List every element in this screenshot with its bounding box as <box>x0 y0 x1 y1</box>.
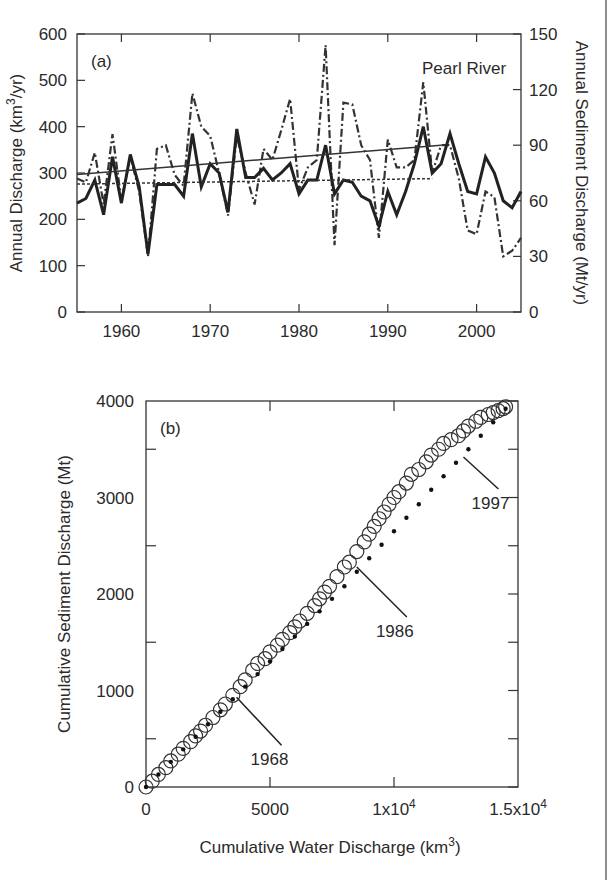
data-point-fitted <box>169 760 173 764</box>
data-point-fitted <box>429 488 433 492</box>
y-tick-label: 400 <box>39 118 67 137</box>
y2-tick-label: 150 <box>529 25 557 44</box>
panel-b-plot-frame <box>146 401 518 787</box>
x-tick-label: 1960 <box>102 322 140 341</box>
data-point-observed <box>218 697 232 711</box>
y2-tick-label: 0 <box>529 303 538 322</box>
annotation-year-label: 1997 <box>472 494 510 513</box>
y-tick-label: 4000 <box>96 392 134 411</box>
data-point-observed <box>350 545 364 559</box>
data-point-fitted <box>293 634 297 638</box>
data-point-fitted <box>491 420 495 424</box>
data-point-fitted <box>268 659 272 663</box>
data-point-fitted <box>181 747 185 751</box>
annotation-year-label: 1968 <box>251 750 289 769</box>
panel-a-right-y-label: Annual Sediment Discharge (Mt/yr) <box>572 41 591 306</box>
data-point-observed <box>392 485 406 499</box>
y-tick-label: 100 <box>39 257 67 276</box>
data-point-fitted <box>342 584 346 588</box>
data-point-observed <box>199 718 213 732</box>
panel-b-cumulative-discharge: 050001x1041.5x104 01000200030004000 1968… <box>55 392 547 857</box>
y2-tick-label: 30 <box>529 247 548 266</box>
data-point-fitted <box>243 684 247 688</box>
y-tick-label: 2000 <box>96 585 134 604</box>
series-sediment-discharge-trend <box>77 179 432 185</box>
data-point-fitted <box>367 556 371 560</box>
x-tick-label: 5000 <box>251 800 289 819</box>
panel-a-annual-discharge: 19601970198019902000 0100200300400500600… <box>4 25 591 341</box>
data-point-observed <box>362 527 376 541</box>
y2-tick-label: 120 <box>529 81 557 100</box>
panel-b-x-label: Cumulative Water Discharge (km3) <box>199 835 460 857</box>
data-point-fitted <box>355 570 359 574</box>
data-point-fitted <box>231 697 235 701</box>
figure: 19601970198019902000 0100200300400500600… <box>0 0 614 880</box>
data-point-fitted <box>317 609 321 613</box>
series-water-discharge <box>77 127 521 254</box>
data-point-fitted <box>417 502 421 506</box>
data-point-fitted <box>441 474 445 478</box>
data-point-observed <box>330 570 344 584</box>
data-point-fitted <box>466 447 470 451</box>
x-tick-label: 1970 <box>191 322 229 341</box>
annotation-leader-line <box>463 457 498 489</box>
x-tick-label: 1990 <box>369 322 407 341</box>
data-point-fitted <box>503 407 507 411</box>
data-point-observed <box>300 606 314 620</box>
y2-tick-label: 90 <box>529 136 548 155</box>
panel-b-series <box>139 400 513 794</box>
data-point-fitted <box>479 434 483 438</box>
data-point-fitted <box>280 647 284 651</box>
panel-a-title: Pearl River <box>422 59 506 78</box>
data-point-observed <box>399 476 413 490</box>
x-tick-label: 1980 <box>280 322 318 341</box>
x-tick-label: 0 <box>141 800 150 819</box>
data-point-observed <box>288 620 302 634</box>
x-tick-label: 2000 <box>458 322 496 341</box>
y-tick-label: 0 <box>58 303 67 322</box>
panel-a-right-y-axis: 0306090120150 <box>513 25 557 322</box>
data-point-fitted <box>330 597 334 601</box>
data-point-fitted <box>255 672 259 676</box>
y-tick-label: 3000 <box>96 489 134 508</box>
panel-b-y-label: Cumulative Sediment Discharge (Mt) <box>55 455 74 733</box>
data-point-fitted <box>454 461 458 465</box>
y-tick-label: 600 <box>39 25 67 44</box>
data-point-fitted <box>156 772 160 776</box>
panel-a-label: (a) <box>91 52 112 71</box>
panel-b-y-axis: 01000200030004000 <box>96 392 518 797</box>
annotation-year-label: 1986 <box>376 622 414 641</box>
data-point-fitted <box>404 516 408 520</box>
data-point-observed <box>367 519 381 533</box>
data-point-fitted <box>144 785 148 789</box>
data-point-fitted <box>193 735 197 739</box>
data-point-fitted <box>206 722 210 726</box>
panel-b-annotations: 196819861997 <box>237 457 510 769</box>
data-point-fitted <box>379 543 383 547</box>
panel-b-x-axis: 050001x1041.5x104 <box>141 401 547 819</box>
annotation-leader-line <box>357 567 407 617</box>
y-tick-label: 1000 <box>96 682 134 701</box>
panel-a-left-y-label: Annual Discharge (km3/yr) <box>4 74 26 272</box>
data-point-fitted <box>305 622 309 626</box>
y-tick-label: 500 <box>39 71 67 90</box>
y-tick-label: 0 <box>125 778 134 797</box>
data-point-observed <box>293 614 307 628</box>
y-tick-label: 300 <box>39 164 67 183</box>
annotation-leader-line <box>237 697 282 745</box>
panel-b-label: (b) <box>160 419 181 438</box>
data-point-observed <box>323 579 337 593</box>
data-point-observed <box>357 535 371 549</box>
data-point-fitted <box>218 710 222 714</box>
data-point-fitted <box>392 529 396 533</box>
y-tick-label: 200 <box>39 210 67 229</box>
panel-a-left-y-axis: 0100200300400500600 <box>39 25 85 322</box>
x-tick-label: 1.5x104 <box>489 797 547 819</box>
y2-tick-label: 60 <box>529 192 548 211</box>
x-tick-label: 1x104 <box>372 797 416 819</box>
